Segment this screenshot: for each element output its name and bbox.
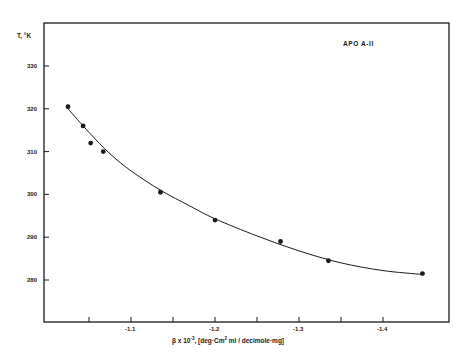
x-axis: -1.1-1.2-1.3-1.4 — [89, 317, 388, 332]
fit-curve — [68, 109, 422, 275]
data-points — [66, 104, 425, 276]
data-point — [420, 271, 425, 276]
data-point — [326, 258, 331, 263]
y-tick-label: 330 — [27, 63, 38, 69]
data-point — [81, 124, 86, 129]
x-axis-title: β x 10-3, [deg·Cm2 ml / decimole·mg] — [172, 336, 284, 345]
data-point — [88, 141, 93, 146]
data-point — [66, 104, 71, 109]
x-tick-label: -1.1 — [125, 326, 136, 332]
y-tick-label: 280 — [27, 277, 38, 283]
chart: 280290300310320330 -1.1-1.2-1.3-1.4 T, °… — [0, 0, 468, 360]
y-axis-title: T, °K — [17, 32, 31, 40]
y-tick-label: 300 — [27, 191, 38, 197]
x-tick-label: -1.2 — [209, 326, 220, 332]
x-tick-label: -1.4 — [377, 326, 388, 332]
x-tick-label: -1.3 — [293, 326, 304, 332]
data-point — [101, 149, 106, 154]
y-tick-label: 310 — [27, 149, 38, 155]
y-tick-label: 290 — [27, 234, 38, 240]
y-axis: 280290300310320330 — [27, 63, 49, 283]
data-point — [278, 239, 283, 244]
series-annotation: APO A-II — [343, 40, 374, 47]
y-tick-label: 320 — [27, 106, 38, 112]
data-point — [213, 218, 218, 223]
plot-frame — [44, 23, 449, 322]
data-point — [158, 190, 163, 195]
